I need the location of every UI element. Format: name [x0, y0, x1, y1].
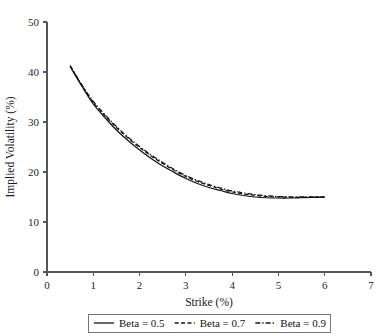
- y-tick-label: 30: [28, 116, 40, 128]
- y-tick-label: 20: [28, 166, 40, 178]
- series-line-3: [70, 66, 325, 197]
- x-axis-title: Strike (%): [185, 296, 233, 309]
- chart-figure: 01020304050 01234567 Strike (%) Implied …: [0, 0, 379, 336]
- series-line-2: [70, 66, 325, 197]
- chart-legend: Beta = 0.5Beta = 0.7Beta = 0.9: [88, 314, 330, 332]
- legend-label-1: Beta = 0.5: [119, 317, 165, 329]
- series-lines: [70, 66, 325, 199]
- y-axis-group: 01020304050: [28, 16, 47, 278]
- x-axis-group: 01234567: [44, 272, 374, 291]
- x-tick-label: 5: [276, 279, 282, 291]
- x-tick-label: 2: [137, 279, 143, 291]
- legend-label-2: Beta = 0.7: [200, 317, 246, 329]
- x-tick-label: 4: [229, 279, 235, 291]
- x-tick-label: 3: [183, 279, 189, 291]
- legend-items: Beta = 0.5Beta = 0.7Beta = 0.9: [94, 317, 326, 329]
- x-tick-label: 0: [44, 279, 50, 291]
- y-tick-label: 40: [28, 66, 40, 78]
- y-axis-title: Implied Volatility (%): [4, 96, 17, 197]
- series-line-1: [70, 67, 325, 199]
- y-tick-label: 0: [34, 266, 40, 278]
- x-tick-label: 7: [368, 279, 374, 291]
- x-tick-label: 6: [322, 279, 328, 291]
- y-tick-label: 10: [28, 216, 40, 228]
- x-axis-ticks: 01234567: [44, 272, 374, 291]
- y-tick-label: 50: [28, 16, 40, 28]
- x-tick-label: 1: [91, 279, 97, 291]
- implied-volatility-chart: 01020304050 01234567 Strike (%) Implied …: [0, 0, 379, 336]
- y-axis-ticks: 01020304050: [28, 16, 47, 278]
- legend-label-3: Beta = 0.9: [280, 317, 326, 329]
